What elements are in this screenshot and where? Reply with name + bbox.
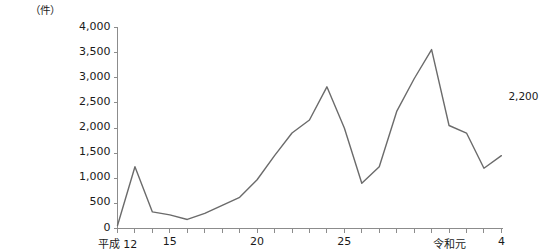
x-axis-tick-label: 20 — [217, 235, 297, 248]
y-axis-tick-label: 2,500 — [79, 95, 111, 108]
y-axis-tick-label: 1,000 — [79, 170, 111, 183]
y-axis-tick-label: 4,000 — [79, 20, 111, 33]
x-axis-tick-label: 25 — [304, 235, 384, 248]
line-chart: （件） 4,0003,5003,0002,5002,0001,5001,0005… — [0, 0, 541, 250]
data-series-line — [118, 50, 502, 226]
y-axis-tick-label: 2,000 — [79, 120, 111, 133]
data-point-value-label: 2,200 — [508, 90, 538, 102]
y-axis-tick-label: 0 — [104, 221, 111, 234]
y-axis-tick-label: 3,500 — [79, 45, 111, 58]
y-axis-tick-label: 1,500 — [79, 145, 111, 158]
x-axis-tick-label: 15 — [130, 235, 210, 248]
y-axis-tick-label: 500 — [90, 195, 111, 208]
x-axis-tick-label: 4 — [461, 235, 541, 248]
y-axis-tick-label: 3,000 — [79, 70, 111, 83]
